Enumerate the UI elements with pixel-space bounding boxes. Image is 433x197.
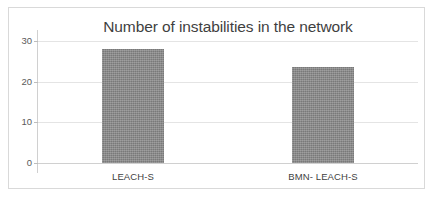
bar-leach-s	[102, 49, 164, 163]
chart-title: Number of instabilities in the network	[38, 18, 418, 36]
chart-figure: Number of instabilities in the network 0…	[0, 0, 433, 197]
y-tick-mark-10	[34, 122, 38, 123]
gridline-10	[38, 122, 418, 123]
gridline-30	[38, 41, 418, 42]
y-tick-mark-30	[34, 41, 38, 42]
gridline-20	[38, 82, 418, 83]
y-tick-label-10: 10	[8, 117, 32, 127]
plot-area	[38, 41, 418, 163]
y-tick-mark-0	[34, 163, 38, 164]
y-tick-mark-20	[34, 82, 38, 83]
y-tick-label-30: 30	[8, 36, 32, 46]
y-axis-tick-labels: 0102030	[4, 0, 32, 197]
gridline-0	[38, 163, 418, 164]
y-tick-label-20: 20	[8, 77, 32, 87]
category-label-leach-s: LEACH-S	[63, 171, 203, 182]
category-label-bmn--leach-s: BMN- LEACH-S	[253, 171, 393, 182]
y-tick-label-0: 0	[8, 158, 32, 168]
bar-bmn--leach-s	[292, 67, 354, 163]
